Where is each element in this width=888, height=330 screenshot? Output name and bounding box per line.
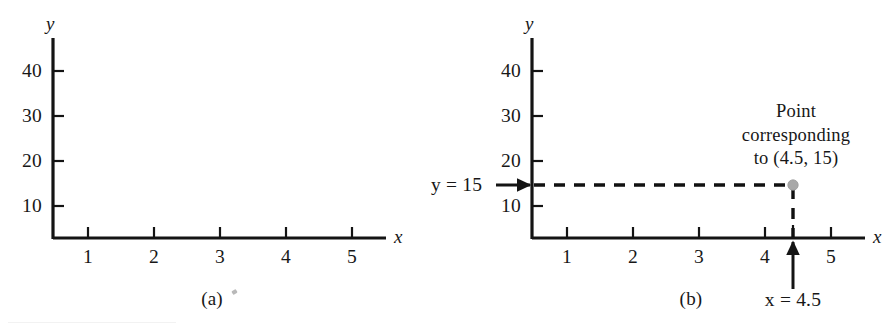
y-tick-label-30-b: 30 [501,105,521,127]
point-annotation-line2: corresponding [742,125,850,145]
scan-artifact-line [8,322,176,323]
x-tick-label-3-a: 3 [215,246,225,268]
y-axis-label-b: y [525,13,534,35]
x-marker-label: x = 4.5 [765,289,821,311]
data-point-4p5-15 [788,180,798,190]
x-axis-label-a: x [394,226,403,248]
point-annotation-line3: to (4.5, 15) [754,148,839,168]
y-axis-label-a: y [46,13,55,35]
y-tick-label-20-a: 20 [22,150,42,172]
x-tick-label-5-a: 5 [347,246,357,268]
y-tick-label-20-b: 20 [501,150,521,172]
y-tick-label-40-a: 40 [22,60,42,82]
panel-caption-a: (a) [201,288,223,310]
point-annotation-line1: Point [776,101,816,121]
x-axis-label-b: x [873,226,882,248]
point-annotation: Point corresponding to (4.5, 15) [716,100,876,171]
panel-b: y x 40 30 20 10 1 2 3 4 5 y = 15 x = 4.5… [444,0,888,330]
x-tick-label-2-a: 2 [149,246,159,268]
x-tick-label-1-b: 1 [562,246,572,268]
x-tick-label-1-a: 1 [83,246,93,268]
y-marker-label: y = 15 [431,174,482,196]
panel-caption-b: (b) [680,288,703,310]
x-tick-label-4-a: 4 [281,246,291,268]
x-tick-label-2-b: 2 [628,246,638,268]
y-tick-label-10-b: 10 [501,195,521,217]
y-tick-label-40-b: 40 [501,60,521,82]
y-tick-label-10-a: 10 [22,195,42,217]
x-tick-label-5-b: 5 [826,246,836,268]
x-tick-label-4-b: 4 [760,246,770,268]
panel-a-plot [0,0,444,330]
x-tick-label-3-b: 3 [694,246,704,268]
y-tick-label-30-a: 30 [22,105,42,127]
panel-a: y x 40 30 20 10 1 2 3 4 5 (a) [0,0,444,330]
figure-container: y x 40 30 20 10 1 2 3 4 5 (a) [0,0,888,330]
